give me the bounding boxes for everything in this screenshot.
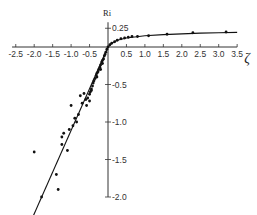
data-point	[33, 151, 36, 154]
data-point	[99, 68, 102, 71]
data-point	[131, 35, 134, 38]
data-point	[147, 34, 150, 37]
data-point	[77, 113, 80, 116]
data-point	[72, 124, 75, 127]
data-point	[116, 39, 119, 42]
x-tick-label: 1.0	[139, 49, 151, 59]
data-point	[40, 196, 43, 199]
data-point	[73, 117, 76, 120]
data-point	[57, 188, 60, 191]
x-tick-label: -2.5	[8, 49, 23, 59]
data-point	[90, 89, 93, 92]
data-point	[75, 121, 78, 124]
data-point	[103, 55, 106, 58]
data-point	[70, 104, 73, 107]
data-point	[191, 31, 194, 34]
x-tick-label: -2.0	[27, 49, 42, 59]
data-point	[55, 173, 58, 176]
data-point	[225, 31, 228, 34]
data-point	[123, 37, 126, 40]
data-point	[84, 98, 87, 101]
x-tick-label: -0.5	[82, 49, 97, 59]
data-point	[92, 82, 95, 85]
x-tick-label: 1.5	[157, 49, 169, 59]
data-point	[83, 92, 86, 95]
x-tick-label: -1.5	[45, 49, 60, 59]
data-point	[85, 104, 88, 107]
data-point	[60, 143, 63, 146]
y-tick-label: -1.0	[112, 117, 127, 127]
data-point	[79, 94, 82, 97]
data-point	[101, 62, 104, 65]
data-point	[60, 136, 63, 139]
x-tick-label: 3.5	[231, 49, 243, 59]
y-tick-label: -1.5	[112, 155, 127, 165]
data-point	[105, 48, 108, 51]
y-axis-label: Ri	[103, 8, 112, 18]
data-point	[68, 128, 71, 131]
data-point	[88, 93, 91, 96]
x-axis: -2.5-2.0-1.5-1.0-0.50.51.01.52.02.53.03.…	[8, 44, 251, 66]
data-point	[136, 35, 139, 38]
data-point	[96, 76, 99, 79]
data-point	[81, 102, 84, 105]
data-point	[127, 36, 130, 39]
fit-lines	[32, 32, 237, 215]
data-point	[166, 33, 169, 36]
data-point	[108, 43, 111, 46]
y-tick-label: -0.5	[112, 80, 127, 90]
scatter-chart: -2.5-2.0-1.5-1.0-0.50.51.01.52.02.53.03.…	[0, 0, 257, 215]
x-axis-label: ζ	[244, 51, 251, 66]
x-tick-label: 2.0	[176, 49, 188, 59]
data-point	[91, 85, 94, 88]
x-tick-label: -1.0	[64, 49, 79, 59]
y-tick-label: -2.0	[112, 192, 127, 202]
x-tick-label: 3.0	[213, 49, 225, 59]
data-point	[113, 40, 116, 43]
fit-stable-line	[108, 32, 237, 47]
data-point	[62, 132, 65, 135]
x-tick-label: 0.5	[121, 49, 133, 59]
data-point	[66, 149, 69, 152]
y-tick-label: 0.25	[112, 23, 129, 33]
data-point	[120, 37, 123, 40]
data-point	[88, 100, 91, 103]
x-tick-label: 2.5	[194, 49, 206, 59]
